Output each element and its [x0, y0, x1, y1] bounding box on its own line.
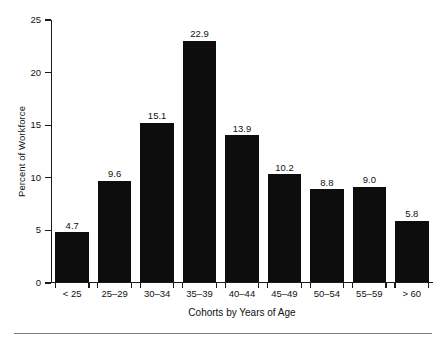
x-tick — [352, 283, 353, 288]
x-axis-line — [51, 282, 433, 283]
x-tick — [394, 283, 395, 288]
x-tick-label: 50–54 — [306, 289, 348, 299]
x-tick — [216, 283, 217, 288]
x-tick — [88, 283, 89, 288]
y-tick-label-10: 10 — [30, 173, 41, 183]
y-tick-25: 25 — [45, 19, 51, 20]
y-axis-title: Percent of Workforce — [14, 20, 30, 283]
bar: 22.9 — [183, 41, 217, 282]
y-tick-label-5: 5 — [36, 226, 41, 236]
x-tick-label: 35–39 — [178, 289, 220, 299]
bar-value-label: 5.8 — [405, 209, 418, 219]
bar: 15.1 — [140, 123, 174, 282]
y-axis-title-text: Percent of Workforce — [17, 106, 28, 197]
x-tick-label: 45–49 — [263, 289, 305, 299]
y-tick-10: 10 — [45, 177, 51, 178]
x-tick — [343, 283, 344, 288]
x-tick-label: 55–59 — [348, 289, 390, 299]
y-tick-15: 15 — [45, 125, 51, 126]
x-tick — [173, 283, 174, 288]
x-tick — [385, 283, 386, 288]
x-tick — [140, 283, 141, 288]
bar: 8.8 — [310, 189, 344, 282]
x-tick-label: < 25 — [51, 289, 93, 299]
x-tick — [97, 283, 98, 288]
y-tick-5: 5 — [45, 230, 51, 231]
x-tick — [225, 283, 226, 288]
y-tick-20: 20 — [45, 72, 51, 73]
bar-value-label: 9.0 — [363, 175, 376, 185]
y-tick-0: 0 — [45, 282, 51, 283]
bar-chart-figure: Percent of Workforce 0510152025 4.79.615… — [0, 0, 445, 345]
y-tick-label-0: 0 — [36, 278, 41, 288]
bar-value-label: 8.8 — [320, 178, 333, 188]
bar: 9.6 — [98, 181, 132, 282]
bar-value-label: 4.7 — [66, 221, 79, 231]
bar-value-label: 22.9 — [190, 29, 209, 39]
bar-value-label: 13.9 — [233, 124, 252, 134]
bar-value-label: 9.6 — [108, 169, 121, 179]
bar: 9.0 — [353, 187, 387, 282]
x-tick — [310, 283, 311, 288]
x-tick — [182, 283, 183, 288]
x-axis-title: Cohorts by Years of Age — [51, 307, 433, 318]
bar: 13.9 — [225, 135, 259, 281]
plot-area: 0510152025 4.79.615.122.913.910.28.89.05… — [51, 20, 433, 283]
bar: 4.7 — [55, 232, 89, 281]
x-tick — [301, 283, 302, 288]
bottom-divider — [14, 333, 432, 334]
x-tick — [267, 283, 268, 288]
y-tick-label-20: 20 — [30, 68, 41, 78]
bar: 5.8 — [395, 221, 429, 282]
x-tick — [258, 283, 259, 288]
y-tick-label-25: 25 — [30, 15, 41, 25]
x-tick-label: 25–29 — [93, 289, 135, 299]
y-tick-label-15: 15 — [30, 120, 41, 130]
x-tick-label: 40–44 — [221, 289, 263, 299]
x-tick — [131, 283, 132, 288]
x-tick-label: > 60 — [391, 289, 433, 299]
x-tick-label: 30–34 — [136, 289, 178, 299]
y-axis-line — [51, 20, 52, 283]
bar: 10.2 — [268, 174, 302, 281]
x-tick — [55, 283, 56, 288]
bar-value-label: 10.2 — [275, 163, 294, 173]
bar-value-label: 15.1 — [148, 111, 167, 121]
x-tick — [428, 283, 429, 288]
